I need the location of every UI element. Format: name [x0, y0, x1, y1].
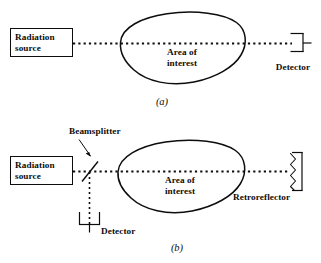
panel-a-caption: (a): [147, 96, 177, 107]
figure-root: Radiation source Area of interest Detect…: [0, 0, 321, 263]
retroreflector-label: Retroreflector: [233, 192, 290, 203]
panel-b-caption: (b): [162, 242, 192, 253]
retroreflector-symbol: [291, 152, 303, 191]
panel-b: Radiation source Beamsplitter Area of in…: [0, 120, 321, 263]
detector-label: Detector: [101, 226, 135, 237]
radiation-source-label: Radiation source: [15, 32, 55, 53]
beamsplitter-arrow-icon: [79, 140, 91, 157]
beamsplitter-label: Beamsplitter: [69, 126, 121, 137]
panel-a: Radiation source Area of interest Detect…: [0, 0, 321, 120]
area-of-interest-label: Area of interest: [150, 47, 214, 68]
area-of-interest-label: Area of interest: [148, 175, 212, 196]
radiation-source-label: Radiation source: [15, 160, 55, 181]
detector-label: Detector: [265, 62, 321, 73]
detector-symbol: [291, 33, 312, 52]
